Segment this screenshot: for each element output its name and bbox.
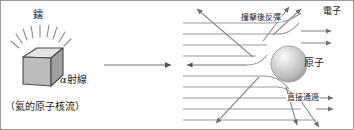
radium-source-cube: [23, 48, 63, 86]
alpha-ray-text: 射線: [67, 74, 87, 85]
label-electron: 電子: [323, 7, 341, 16]
alpha-symbol: α: [60, 74, 67, 85]
incoming-beams-upper: [183, 23, 277, 56]
label-pass-through: 直接通過: [286, 94, 320, 102]
label-atom: 原子: [304, 58, 324, 68]
label-radium: 鐳: [33, 10, 43, 20]
label-helium-nucleus-stream: （氦的原子核流）: [5, 102, 85, 112]
label-alpha-ray: α射線: [60, 75, 87, 85]
backscattered-ray: [187, 55, 267, 68]
label-bounce-back: 撞擊後反彈: [240, 14, 282, 22]
atom-sphere: [271, 46, 307, 82]
shine-rays-group: [11, 25, 71, 48]
scattering-diagram-figure: 鐳 α射線 （氦的原子核流） 撞擊後反彈 電子 原子 直接通過: [0, 0, 354, 130]
